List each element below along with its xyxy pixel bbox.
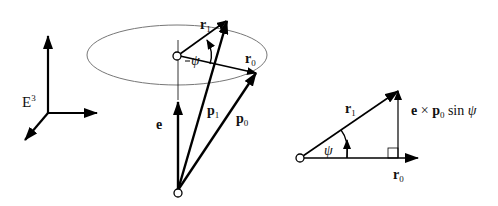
r0-label: r0 <box>245 52 256 68</box>
frame-label: E3 <box>22 94 36 110</box>
tri-r1-label: r1 <box>345 102 356 118</box>
e-label: e <box>156 118 162 132</box>
p1-label: p1 <box>207 104 219 120</box>
origin-point <box>174 189 182 197</box>
tri-psi-label: ψ <box>324 144 333 158</box>
p0-vector <box>178 73 256 190</box>
psi-label: ψ <box>191 54 200 68</box>
coordinate-frame <box>25 36 97 140</box>
center-point <box>173 52 181 60</box>
triangle-diagram <box>296 91 418 162</box>
cross-product-label: e × p0 sin ψ <box>411 104 476 120</box>
p1-vector <box>178 21 227 190</box>
tri-r0-label: r0 <box>393 168 404 184</box>
psi-arc <box>207 40 211 64</box>
p0-label: p0 <box>236 112 248 128</box>
r1-label: r1 <box>200 18 211 34</box>
